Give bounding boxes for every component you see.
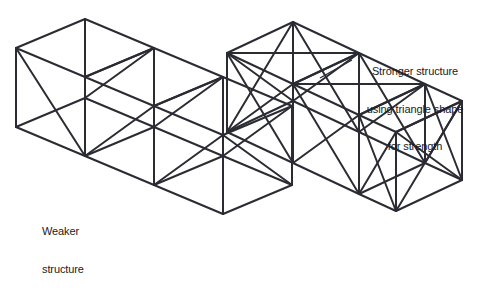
weaker-label-line-1: Weaker xyxy=(42,225,84,238)
stronger-label-line-2: using triangle shape xyxy=(356,103,474,116)
stronger-label-line-3: for strength xyxy=(356,140,474,153)
stronger-structure-label: Stronger structure using triangle shape … xyxy=(356,40,474,165)
weaker-structure-label: Weaker structure xyxy=(42,200,84,288)
weaker-label-line-2: structure xyxy=(42,263,84,276)
stronger-label-line-1: Stronger structure xyxy=(356,65,474,78)
